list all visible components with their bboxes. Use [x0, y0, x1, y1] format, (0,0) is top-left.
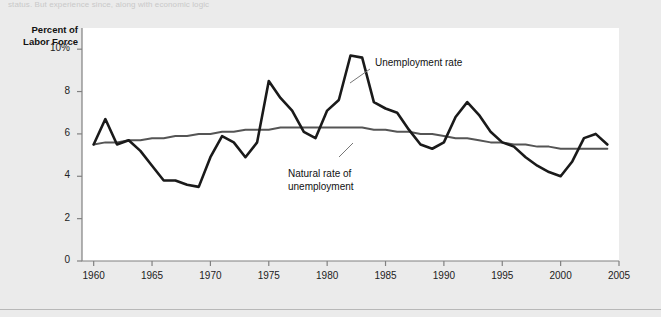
x-axis-tick-label: 1975 — [249, 270, 289, 281]
x-axis-tick-label: 1970 — [190, 270, 230, 281]
y-axis-tick-label: 4 — [36, 169, 70, 180]
x-axis-tick-label: 1960 — [74, 270, 114, 281]
x-axis-tick-label: 2005 — [599, 270, 639, 281]
y-axis-tick-label: 2 — [36, 212, 70, 223]
x-axis-tick-label: 1995 — [482, 270, 522, 281]
y-axis-tick-label: 10% — [36, 42, 70, 53]
footer-divider — [0, 309, 661, 310]
annotation-natural-rate-line2: unemployment — [288, 181, 354, 194]
y-axis-tick-label: 8 — [36, 85, 70, 96]
x-axis-tick-label: 1980 — [307, 270, 347, 281]
annotation-natural-rate: Natural rate ofunemployment — [288, 168, 354, 193]
x-axis-tick-label: 2000 — [541, 270, 581, 281]
annotation-natural-rate-line1: Natural rate of — [288, 168, 354, 181]
y-axis-tick-label: 6 — [36, 127, 70, 138]
x-axis-tick-label: 1990 — [424, 270, 464, 281]
annotation-unemployment-rate: Unemployment rate — [375, 57, 462, 70]
plot-area-background — [82, 28, 619, 261]
x-axis-tick-label: 1965 — [132, 270, 172, 281]
y-axis-tick-label: 0 — [36, 254, 70, 265]
unemployment-chart-figure: status. But experience since, along with… — [0, 0, 661, 317]
x-axis-tick-label: 1985 — [366, 270, 406, 281]
